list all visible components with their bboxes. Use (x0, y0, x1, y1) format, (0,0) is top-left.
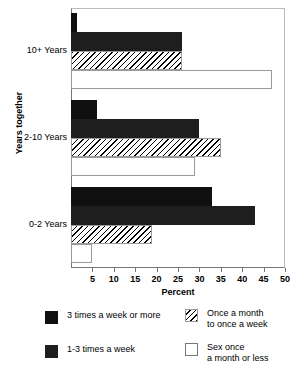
y-axis-tick-label: 10+ Years (0, 45, 67, 55)
legend-label: 3 times a week or more (67, 310, 161, 321)
x-axis-tick-label: 25 (166, 274, 190, 284)
x-axis-tick-label: 45 (252, 274, 276, 284)
legend-entry: Sex once a month or less (185, 342, 269, 363)
legend-entry: Once a month to once a week (185, 308, 268, 329)
legend-label: Once a month to once a week (207, 308, 268, 329)
bar (71, 70, 272, 89)
legend-swatch-hatched (185, 309, 198, 322)
y-axis-tick-label: 2-10 Years (0, 132, 67, 142)
bar (71, 119, 199, 138)
x-axis-tick-label: 35 (209, 274, 233, 284)
x-axis-tick-mark (135, 268, 136, 272)
bar (71, 157, 195, 176)
x-axis-tick-label: 20 (145, 274, 169, 284)
y-axis-title: Years together (14, 73, 24, 173)
bar (71, 32, 182, 51)
x-axis-tick-mark (114, 268, 115, 272)
x-axis-tick-mark (92, 268, 93, 272)
bar (71, 187, 212, 206)
bar (71, 225, 152, 244)
x-axis-tick-label: 30 (187, 274, 211, 284)
x-axis-tick-label: 40 (230, 274, 254, 284)
horizontal-bar-chart: Years together 10+ Years2-10 Years0-2 Ye… (0, 0, 308, 374)
x-axis-tick-mark (264, 268, 265, 272)
legend-swatch-solid-dark (45, 345, 58, 358)
bar (71, 51, 182, 70)
x-axis-tick-label: 5 (80, 274, 104, 284)
legend-label: 1-3 times a week (67, 344, 135, 355)
bar (71, 244, 92, 263)
x-axis-tick-mark (157, 268, 158, 272)
chart-legend: 3 times a week or moreOnce a month to on… (0, 308, 308, 370)
y-axis-tick-label: 0-2 Years (0, 219, 67, 229)
x-axis-title: Percent (71, 287, 285, 297)
x-axis-tick-mark (285, 268, 286, 272)
x-axis-tick-mark (178, 268, 179, 272)
legend-label: Sex once a month or less (207, 342, 269, 363)
legend-entry: 1-3 times a week (45, 344, 135, 358)
legend-swatch-open (185, 343, 198, 356)
bar (71, 100, 97, 119)
x-axis-tick-label: 50 (273, 274, 297, 284)
legend-swatch-solid-black (45, 311, 58, 324)
x-axis-tick-mark (242, 268, 243, 272)
bar (71, 13, 77, 32)
bars-layer (71, 8, 285, 268)
legend-entry: 3 times a week or more (45, 310, 161, 324)
bar (71, 206, 255, 225)
x-axis-tick-mark (221, 268, 222, 272)
x-axis-tick-label: 10 (102, 274, 126, 284)
bar (71, 138, 221, 157)
x-axis-tick-label: 15 (123, 274, 147, 284)
x-axis-tick-mark (199, 268, 200, 272)
